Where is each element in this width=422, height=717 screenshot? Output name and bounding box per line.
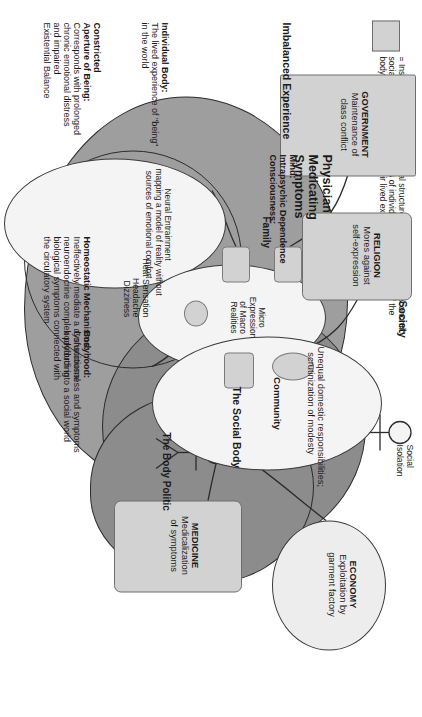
micro-expression-label: Micro Expression of Macro Realities bbox=[228, 276, 266, 358]
block-individual-body-heading: Individual Body: bbox=[160, 22, 170, 92]
block-bodyhood: Bodyhood: Consciousness and symptoms bod… bbox=[62, 330, 92, 452]
block-mind-heading: Mind: bbox=[288, 154, 298, 178]
institution-label-medicine: MEDICINE Medicalization of symptoms bbox=[169, 504, 200, 586]
institution-label-government: GOVERNMENT Maintenance of class conflict bbox=[339, 80, 370, 168]
institution-detail-religion: Mores against self-expression bbox=[351, 224, 371, 287]
community-detail-label: Unequal domestic responsibilities; scrut… bbox=[305, 346, 326, 460]
figure-title: Imbalanced Experience bbox=[280, 22, 292, 139]
community-ellipse bbox=[152, 336, 382, 470]
community-label: Community bbox=[271, 346, 282, 460]
social-isolation-label: Social Isolation bbox=[395, 444, 414, 476]
family-label: Family bbox=[261, 216, 272, 248]
institution-label-religion: RELIGION Mores against self-expression bbox=[351, 216, 382, 294]
institution-name-economy: ECONOMY bbox=[348, 560, 358, 608]
institution-name-government: GOVERNMENT bbox=[360, 91, 370, 158]
block-constricted-body: Corresponds with prolonged chronic emoti… bbox=[42, 22, 82, 135]
institution-label-economy: ECONOMY Exploitation by garment factory bbox=[327, 526, 358, 642]
body-symptoms-label: Heat Sensation Headache Dizziness bbox=[121, 258, 150, 317]
social-body-label: The Social Body bbox=[230, 386, 242, 468]
institution-detail-medicine: Medicalization of symptoms bbox=[169, 516, 189, 575]
connector-block bbox=[184, 300, 208, 326]
block-bodyhood-heading: Bodyhood: bbox=[82, 330, 92, 378]
institution-name-medicine: MEDICINE bbox=[190, 522, 200, 567]
institution-detail-government: Maintenance of class conflict bbox=[339, 92, 359, 156]
block-bodyhood-body: Consciousness and symptoms bodyforth int… bbox=[62, 330, 82, 452]
block-constricted: Constricted Aperture of Being: Correspon… bbox=[42, 22, 102, 135]
society-label: Society bbox=[396, 300, 408, 337]
institution-name-religion: RELIGION bbox=[372, 233, 382, 278]
diagram-canvas: = Institutions of secondary social struc… bbox=[0, 0, 422, 717]
block-individual-body: Individual Body: The lived experience of… bbox=[140, 22, 170, 146]
central-label: Physician Medicating Symptoms bbox=[292, 154, 334, 219]
body-politic-label: The Body Politic bbox=[161, 432, 172, 510]
institution-detail-economy: Exploitation by garment factory bbox=[327, 552, 347, 617]
block-mind: Mind: Intrapsychic Dependence Consciousn… bbox=[268, 154, 298, 263]
block-individual-body-body: The lived experience of "being" in the w… bbox=[140, 22, 160, 146]
block-constricted-heading: Constricted Aperture of Being: bbox=[82, 22, 102, 101]
